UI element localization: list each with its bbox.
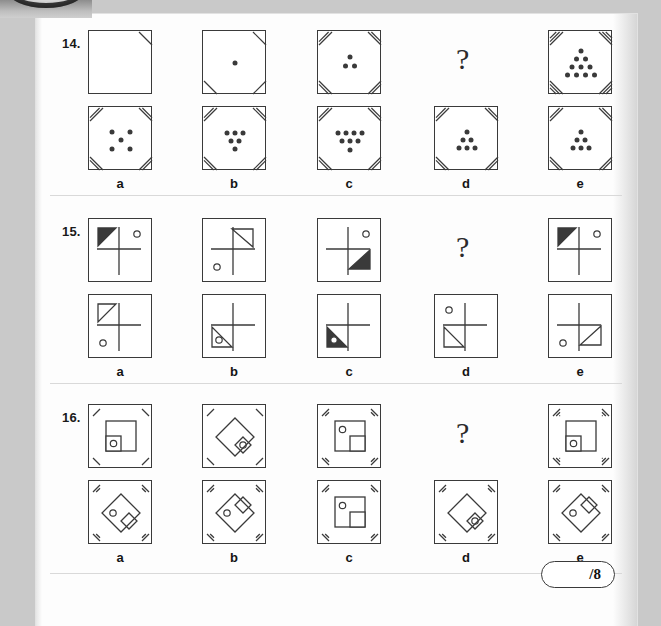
question-14-options-row: abcde xyxy=(36,106,637,180)
puzzle-cell xyxy=(202,404,266,468)
puzzle-cell[interactable] xyxy=(548,480,612,544)
option-c[interactable] xyxy=(317,480,381,544)
option-label-a: a xyxy=(88,364,152,379)
sequence-cell-5 xyxy=(548,218,612,282)
sequence-cell-5 xyxy=(548,30,612,94)
sequence-cell-3 xyxy=(317,218,381,282)
puzzle-cell[interactable] xyxy=(548,106,612,170)
question-mark: ? xyxy=(456,44,469,74)
puzzle-cell xyxy=(202,30,266,94)
question-block-16: 16. ? abcde xyxy=(36,384,637,574)
option-d[interactable] xyxy=(434,480,498,544)
option-b[interactable] xyxy=(202,480,266,544)
puzzle-cell xyxy=(88,30,152,94)
puzzle-cell xyxy=(317,30,381,94)
option-label-e: e xyxy=(548,176,612,191)
puzzle-cell[interactable] xyxy=(202,480,266,544)
option-e[interactable] xyxy=(548,480,612,544)
option-label-b: b xyxy=(202,364,266,379)
worksheet-page: 14. ? abcde 15. ? abcde 16. ? abcde /8 xyxy=(0,0,661,626)
option-b[interactable] xyxy=(202,106,266,170)
option-a[interactable] xyxy=(88,106,152,170)
option-c[interactable] xyxy=(317,106,381,170)
option-e[interactable] xyxy=(548,294,612,358)
question-15-sequence-row: ? xyxy=(36,218,637,292)
question-16-sequence-row: ? xyxy=(36,404,637,478)
score-label: /8 xyxy=(589,566,601,583)
option-label-d: d xyxy=(434,550,498,565)
question-block-14: 14. ? abcde xyxy=(36,14,637,196)
option-label-b: b xyxy=(202,550,266,565)
puzzle-cell xyxy=(88,404,152,468)
puzzle-cell[interactable] xyxy=(317,480,381,544)
question-block-15: 15. ? abcde xyxy=(36,196,637,384)
puzzle-cell xyxy=(548,30,612,94)
puzzle-cell[interactable] xyxy=(548,294,612,358)
option-label-c: c xyxy=(317,550,381,565)
option-a[interactable] xyxy=(88,294,152,358)
option-label-e: e xyxy=(548,364,612,379)
sequence-cell-1 xyxy=(88,30,152,94)
puzzle-cell xyxy=(202,218,266,282)
question-15-options-row: abcde xyxy=(36,294,637,368)
option-label-a: a xyxy=(88,550,152,565)
option-label-d: d xyxy=(434,176,498,191)
sequence-cell-1 xyxy=(88,404,152,468)
section-divider xyxy=(50,573,622,574)
sequence-cell-5 xyxy=(548,404,612,468)
puzzle-cell xyxy=(88,218,152,282)
puzzle-cell xyxy=(548,404,612,468)
sequence-cell-2 xyxy=(202,30,266,94)
option-label-a: a xyxy=(88,176,152,191)
option-d[interactable] xyxy=(434,294,498,358)
option-label-b: b xyxy=(202,176,266,191)
score-box[interactable]: /8 xyxy=(541,561,615,588)
option-label-c: c xyxy=(317,176,381,191)
question-14-sequence-row: ? xyxy=(36,30,637,104)
sequence-cell-1 xyxy=(88,218,152,282)
option-c[interactable] xyxy=(317,294,381,358)
puzzle-cell[interactable] xyxy=(202,294,266,358)
question-mark: ? xyxy=(456,418,469,448)
question-mark: ? xyxy=(456,232,469,262)
option-d[interactable] xyxy=(434,106,498,170)
puzzle-cell xyxy=(317,404,381,468)
question-16-options-row: abcde xyxy=(36,480,637,554)
puzzle-cell xyxy=(548,218,612,282)
sequence-cell-3 xyxy=(317,404,381,468)
option-a[interactable] xyxy=(88,480,152,544)
option-label-d: d xyxy=(434,364,498,379)
puzzle-cell xyxy=(317,218,381,282)
puzzle-cell[interactable] xyxy=(317,106,381,170)
sequence-cell-3 xyxy=(317,30,381,94)
puzzle-cell[interactable] xyxy=(434,294,498,358)
puzzle-cell[interactable] xyxy=(202,106,266,170)
option-label-c: c xyxy=(317,364,381,379)
option-e[interactable] xyxy=(548,106,612,170)
puzzle-cell[interactable] xyxy=(434,106,498,170)
puzzle-cell[interactable] xyxy=(88,294,152,358)
puzzle-cell[interactable] xyxy=(434,480,498,544)
puzzle-cell[interactable] xyxy=(88,480,152,544)
puzzle-cell[interactable] xyxy=(88,106,152,170)
sequence-cell-2 xyxy=(202,404,266,468)
puzzle-cell[interactable] xyxy=(317,294,381,358)
sequence-cell-2 xyxy=(202,218,266,282)
option-b[interactable] xyxy=(202,294,266,358)
paper-sheet: 14. ? abcde 15. ? abcde 16. ? abcde /8 xyxy=(36,14,637,626)
